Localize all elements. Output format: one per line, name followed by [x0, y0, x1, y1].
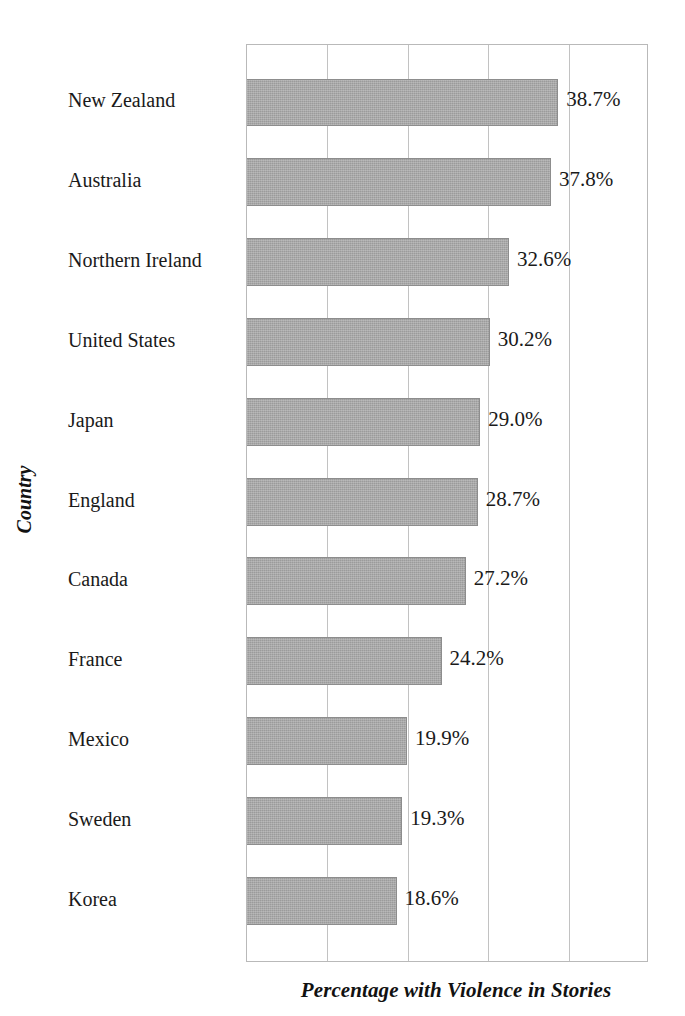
bar	[247, 238, 509, 286]
value-label: 19.3%	[410, 808, 464, 829]
bar-chart-figure: Country Percentage with Violence in Stor…	[0, 0, 685, 1016]
bar	[247, 717, 407, 765]
category-label: Australia	[68, 170, 240, 190]
bar	[247, 557, 466, 605]
value-label: 29.0%	[488, 409, 542, 430]
y-axis-title: Country	[13, 445, 36, 555]
category-label: United States	[68, 330, 240, 350]
value-label: 30.2%	[498, 329, 552, 350]
category-label: Mexico	[68, 729, 240, 749]
bar	[247, 637, 442, 685]
value-label: 28.7%	[486, 489, 540, 510]
bar	[247, 318, 490, 366]
value-label: 27.2%	[474, 568, 528, 589]
category-label: Sweden	[68, 809, 240, 829]
category-label: France	[68, 649, 240, 669]
category-label: New Zealand	[68, 90, 240, 110]
bar	[247, 398, 480, 446]
value-label: 18.6%	[405, 888, 459, 909]
value-label: 37.8%	[559, 169, 613, 190]
x-axis-title: Percentage with Violence in Stories	[246, 978, 666, 1003]
category-label: Canada	[68, 569, 240, 589]
value-label: 24.2%	[450, 648, 504, 669]
bar	[247, 797, 402, 845]
value-label: 19.9%	[415, 728, 469, 749]
value-label: 38.7%	[566, 89, 620, 110]
category-label: England	[68, 490, 240, 510]
category-label: Northern Ireland	[68, 250, 240, 270]
bar	[247, 877, 397, 925]
bar	[247, 478, 478, 526]
bar	[247, 79, 558, 127]
category-label: Japan	[68, 410, 240, 430]
bar	[247, 158, 551, 206]
value-label: 32.6%	[517, 249, 571, 270]
category-label: Korea	[68, 889, 240, 909]
